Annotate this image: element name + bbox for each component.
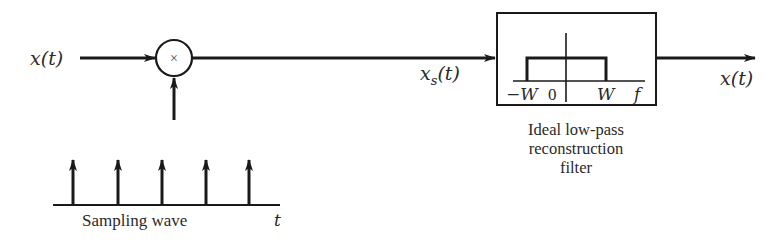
filter-caption-line1: Ideal low-pass — [528, 120, 624, 139]
multiply-icon: × — [170, 51, 178, 66]
neg-W-tick-label: −W — [506, 84, 539, 104]
sampling-wave-label: Sampling wave — [82, 211, 187, 230]
output-signal-label: x(t) — [720, 67, 753, 89]
time-axis-label: t — [274, 210, 281, 230]
sampled-signal-label: xs(t) — [420, 62, 460, 88]
zero-tick-label: 0 — [548, 85, 557, 104]
filter-caption-line2: reconstruction — [529, 139, 623, 158]
sampling-wave: Sampling wave t — [53, 160, 281, 230]
sampling-diagram: x(t) × xs(t) −W 0 W f Ideal low-pass rec… — [0, 0, 781, 243]
W-tick-label: W — [597, 84, 616, 104]
filter-caption-line3: filter — [560, 158, 593, 177]
lowpass-filter-block: −W 0 W f — [497, 13, 656, 105]
multiplier-node: × — [156, 40, 192, 76]
input-signal-label: x(t) — [30, 47, 63, 69]
